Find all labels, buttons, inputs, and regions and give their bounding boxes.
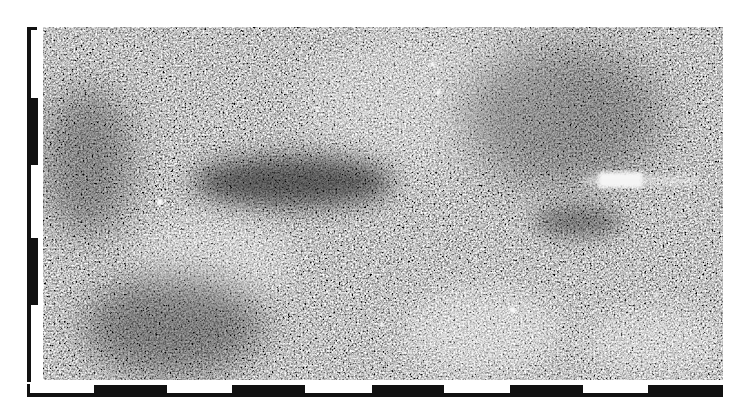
bright-target-6 [380,323,384,327]
vertical-scale-black-segment [27,238,38,305]
bright-target-streak [583,177,698,185]
vertical-scale-top-tick [27,27,37,30]
dark-region-upper-right [463,47,663,187]
radar-image [43,27,723,380]
bright-target-1 [157,199,163,205]
horizontal-scale-black-segment [94,385,167,397]
horizontal-scale-black-segment [232,385,305,397]
dark-region-left [43,87,133,237]
bright-target-5 [510,307,516,313]
bright-target-7 [655,292,659,296]
bright-target-4 [315,107,319,111]
bright-field-lower-right [583,307,723,377]
dark-band-center [193,157,393,207]
dark-streak-right [533,207,623,237]
horizontal-scale-black-segment [510,385,583,397]
bright-target-2 [430,62,435,67]
vertical-scale-black-segment [27,98,38,165]
dark-region-lower-left [83,277,263,377]
horizontal-scale-black-segment [648,385,723,397]
bright-field-lower-center [403,287,563,377]
bright-target-3 [436,90,441,95]
vertical-scale-line [27,27,31,382]
horizontal-scale-black-segment [372,385,444,397]
horizontal-scale-left-tick [27,384,30,396]
